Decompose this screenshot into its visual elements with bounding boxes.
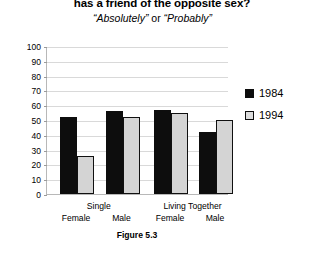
y-axis-tick-label: 100 [27,43,41,52]
bar-1994-male-3 [216,120,233,194]
subtitle-conjunction: or [148,12,163,24]
y-axis-tick-label: 40 [32,132,41,141]
y-axis-tick-label: 50 [32,117,41,126]
bar-group [199,47,233,194]
bar-group [60,47,94,194]
bar-1984-male-1 [106,111,123,194]
y-axis-tick [44,195,47,196]
y-axis-tick-label: 10 [32,176,41,185]
bar-group [154,47,188,194]
x-axis-group-label-living-together: Living Together [163,201,221,211]
x-axis-label-female-2: Female [156,213,185,223]
y-axis-tick-label: 80 [32,72,41,81]
y-axis-tick-label: 60 [32,102,41,111]
chart-subtitle: “Absolutely” or “Probably” [0,12,305,24]
subtitle-probably: “Probably” [164,12,212,24]
figure-caption: Figure 5.3 [46,230,228,240]
y-axis-tick-label: 30 [32,146,41,155]
bar-group [106,47,140,194]
legend-item-1994: 1994 [245,110,283,121]
subtitle-absolutely: “Absolutely” [93,12,148,24]
y-axis-tick-label: 70 [32,87,41,96]
x-axis-label-male-3: Male [206,213,225,223]
y-axis-tick-label: 0 [36,191,41,200]
bar-1984-female-0 [60,117,77,194]
bar-1984-male-3 [199,132,216,194]
x-axis-label-female-0: Female [62,213,91,223]
legend-item-1984: 1984 [245,88,283,99]
chart-legend: 1984 1994 [245,88,283,132]
bar-series-container [47,47,228,194]
bar-1994-female-2 [171,113,188,194]
bar-1994-male-1 [123,117,140,194]
bar-1984-female-2 [154,110,171,194]
x-axis-label-male-1: Male [112,213,131,223]
legend-swatch-1994 [245,111,254,120]
legend-swatch-1984 [245,89,254,98]
y-axis-tick-label: 90 [32,58,41,67]
chart-title: has a friend of the opposite sex? [0,0,324,9]
bar-1994-female-0 [77,156,94,194]
y-axis-tick-label: 20 [32,161,41,170]
plot-area: 0102030405060708090100 [46,47,228,195]
legend-label-1994: 1994 [259,110,283,121]
legend-label-1984: 1984 [259,88,283,99]
x-axis-group-label-single: Single [87,201,111,211]
